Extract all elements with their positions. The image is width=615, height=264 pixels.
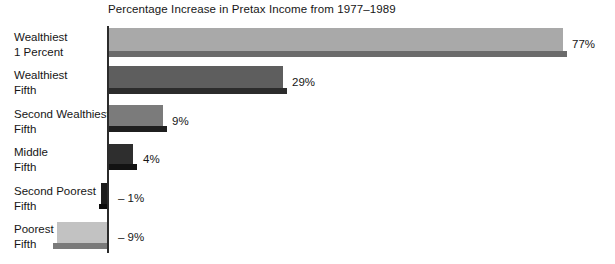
bar-shadow (108, 164, 137, 170)
plot-area: Wealthiest 1 Percent 77% Wealthiest Fift… (0, 0, 615, 264)
category-label: Wealthiest Fifth (14, 68, 67, 97)
category-label: Poorest Fifth (14, 222, 54, 251)
bar-shadow (108, 88, 287, 94)
bar-value-label: 4% (143, 153, 160, 165)
category-label-line1: Second Poorest (14, 185, 96, 197)
bar-shadow (108, 51, 567, 57)
category-label-line2: 1 Percent (14, 45, 67, 60)
category-label-line2: Fifth (14, 237, 54, 252)
bar-segment (108, 66, 283, 88)
bar-segment (108, 144, 133, 164)
category-label: Middle Fifth (14, 145, 48, 174)
bar-shadow (108, 126, 167, 132)
category-label-line2: Fifth (14, 199, 96, 214)
bar-shadow (53, 243, 108, 249)
category-label-line2: Fifth (14, 160, 48, 175)
bar-chart: Percentage Increase in Pretax Income fro… (0, 0, 615, 264)
category-label-line1: Poorest (14, 223, 54, 235)
category-label: Wealthiest 1 Percent (14, 30, 67, 59)
bar-value-label: 77% (572, 38, 595, 50)
zero-axis-line (107, 26, 109, 253)
bar-value-label: 9% (172, 115, 189, 127)
category-label-line2: Fifth (14, 122, 110, 137)
category-label-line2: Fifth (14, 83, 67, 98)
bar-segment (108, 28, 563, 51)
bar-segment (108, 105, 163, 126)
category-label-line1: Middle (14, 146, 48, 158)
bar-segment (57, 222, 108, 243)
category-label-line1: Wealthiest (14, 69, 67, 81)
category-label: Second Wealthiest Fifth (14, 107, 110, 136)
category-label-line1: Second Wealthiest (14, 108, 110, 120)
category-label-line1: Wealthiest (14, 31, 67, 43)
category-label: Second Poorest Fifth (14, 184, 96, 213)
bar-value-label: 29% (292, 76, 315, 88)
bar-value-label: – 1% (118, 192, 144, 204)
bar-value-label: – 9% (118, 231, 144, 243)
